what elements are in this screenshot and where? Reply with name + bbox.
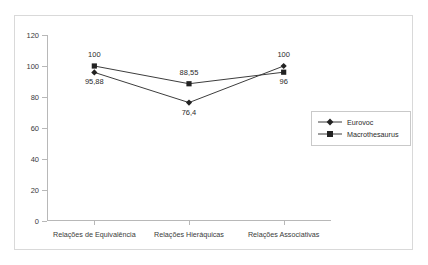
series-layer [47, 35, 331, 221]
x-axis-category-label: Relações Hieráquicas [154, 230, 224, 239]
plot-area: 020406080100120 Relações de Equivalência… [47, 35, 331, 221]
y-axis-tick-label: 120 [26, 31, 39, 40]
legend-label-macrothesaurus: Macrothesaurus [347, 130, 399, 139]
data-point-label: 100 [88, 50, 101, 59]
data-point-marker-diamond [281, 63, 287, 69]
data-point-label: 76,4 [182, 108, 197, 117]
x-axis-category-label: Relações de Equivalência [53, 230, 136, 239]
data-point-marker-square [281, 70, 286, 75]
y-axis-tick-label: 80 [31, 93, 39, 102]
y-axis-tick-label: 100 [26, 62, 39, 71]
y-axis-tick-label: 60 [31, 124, 39, 133]
legend-item-macrothesaurus: Macrothesaurus [317, 128, 405, 140]
x-axis-category-label: Relações Associativas [248, 230, 320, 239]
data-point-marker-square [92, 63, 97, 68]
data-point-label: 88,55 [180, 68, 199, 77]
legend-label-eurovoc: Eurovoc [347, 118, 373, 127]
x-axis-tick [94, 221, 95, 225]
y-axis-tick [42, 221, 47, 222]
data-point-label: 95,88 [85, 77, 104, 86]
y-axis-tick-label: 0 [35, 217, 39, 226]
data-point-label: 100 [277, 50, 290, 59]
legend-item-eurovoc: Eurovoc [317, 116, 405, 128]
diamond-marker-icon [317, 117, 343, 127]
chart-legend: Eurovoc Macrothesaurus [311, 111, 411, 146]
x-axis-tick [284, 221, 285, 225]
chart-frame: 020406080100120 Relações de Equivalência… [14, 15, 413, 250]
x-axis-tick [189, 221, 190, 225]
data-point-marker-square [186, 81, 191, 86]
y-axis-tick-label: 40 [31, 155, 39, 164]
data-point-marker-diamond [186, 99, 192, 105]
square-marker-icon [317, 129, 343, 139]
y-axis-tick-label: 20 [31, 186, 39, 195]
data-point-marker-diamond [91, 69, 97, 75]
data-point-label: 96 [279, 77, 287, 86]
